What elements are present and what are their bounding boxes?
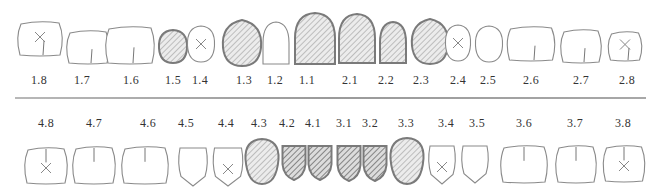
tooth-label-4-8: 4.8 [38, 116, 54, 131]
tooth-1-7[interactable] [67, 31, 110, 64]
tooth-outline [561, 30, 602, 63]
tooth-outline [213, 148, 243, 186]
tooth-1-8[interactable] [18, 22, 63, 56]
tooth-label-1-7: 1.7 [74, 73, 90, 88]
tooth-label-1-3: 1.3 [236, 73, 252, 88]
tooth-2-3[interactable] [412, 19, 448, 64]
tooth-1-5[interactable] [159, 30, 187, 63]
tooth-label-2-4: 2.4 [450, 73, 466, 88]
tooth-label-3-3: 3.3 [398, 116, 414, 131]
tooth-4-7[interactable] [73, 147, 116, 184]
tooth-3-6[interactable] [501, 146, 548, 183]
tooth-label-4-4: 4.4 [218, 116, 234, 131]
tooth-outline [18, 22, 63, 56]
tooth-label-4-2: 4.2 [279, 116, 295, 131]
tooth-outline [263, 22, 289, 64]
tooth-3-8[interactable] [603, 146, 645, 182]
tooth-label-3-7: 3.7 [567, 116, 583, 131]
tooth-3-7[interactable] [556, 146, 597, 183]
tooth-outline [283, 146, 306, 180]
tooth-4-3[interactable] [245, 139, 278, 184]
tooth-4-4[interactable] [213, 148, 243, 186]
tooth-outline [179, 148, 208, 186]
tooth-label-4-7: 4.7 [86, 116, 102, 131]
tooth-label-3-6: 3.6 [516, 116, 532, 131]
tooth-label-1-6: 1.6 [123, 73, 139, 88]
tooth-2-4[interactable] [445, 25, 470, 61]
tooth-1-1[interactable] [295, 13, 335, 64]
tooth-outline [295, 13, 335, 64]
tooth-2-8[interactable] [608, 32, 642, 61]
tooth-outline [106, 27, 155, 64]
tooth-label-3-2: 3.2 [362, 116, 378, 131]
tooth-label-4-5: 4.5 [178, 116, 194, 131]
tooth-1-4[interactable] [187, 26, 214, 62]
tooth-label-1-8: 1.8 [31, 73, 47, 88]
tooth-outline [462, 146, 489, 183]
tooth-1-2[interactable] [263, 22, 289, 64]
tooth-label-1-1: 1.1 [299, 73, 315, 88]
tooth-outline [338, 146, 361, 181]
tooth-3-1[interactable] [338, 146, 361, 181]
tooth-label-4-3: 4.3 [251, 116, 267, 131]
tooth-4-8[interactable] [25, 148, 68, 184]
tooth-label-2-2: 2.2 [378, 73, 394, 88]
tooth-2-5[interactable] [475, 26, 502, 62]
tooth-outline [412, 19, 448, 64]
tooth-label-2-7: 2.7 [573, 73, 589, 88]
tooth-outline [608, 32, 642, 61]
tooth-4-1[interactable] [309, 146, 332, 180]
tooth-outline [339, 14, 375, 63]
tooth-3-5[interactable] [462, 146, 489, 183]
tooth-label-4-6: 4.6 [140, 116, 156, 131]
tooth-2-6[interactable] [507, 27, 555, 61]
tooth-3-2[interactable] [364, 146, 387, 181]
tooth-outline [390, 138, 423, 184]
tooth-label-4-1: 4.1 [305, 116, 321, 131]
tooth-label-2-6: 2.6 [523, 73, 539, 88]
tooth-2-7[interactable] [561, 30, 602, 63]
tooth-outline [507, 27, 555, 61]
tooth-1-6[interactable] [106, 27, 155, 64]
tooth-label-1-5: 1.5 [165, 73, 181, 88]
tooth-label-3-5: 3.5 [469, 116, 485, 131]
tooth-2-1[interactable] [339, 14, 375, 63]
tooth-4-5[interactable] [179, 148, 208, 186]
tooth-outline [309, 146, 332, 180]
tooth-outline [67, 31, 110, 64]
dental-chart: 1.81.71.61.51.41.31.21.12.12.22.32.42.52… [0, 0, 661, 189]
tooth-outline [380, 22, 406, 63]
tooth-3-4[interactable] [429, 146, 456, 184]
teeth-layer [18, 13, 645, 186]
tooth-diagram [0, 0, 661, 189]
tooth-label-3-8: 3.8 [615, 116, 631, 131]
tooth-label-2-8: 2.8 [619, 73, 635, 88]
tooth-1-3[interactable] [223, 20, 261, 66]
tooth-outline [475, 26, 502, 62]
tooth-2-2[interactable] [380, 22, 406, 63]
tooth-label-1-2: 1.2 [267, 73, 283, 88]
tooth-label-1-4: 1.4 [192, 73, 208, 88]
tooth-label-2-3: 2.3 [413, 73, 429, 88]
tooth-label-3-4: 3.4 [438, 116, 454, 131]
tooth-label-2-5: 2.5 [480, 73, 496, 88]
tooth-label-3-1: 3.1 [336, 116, 352, 131]
tooth-outline [364, 146, 387, 181]
tooth-label-2-1: 2.1 [342, 73, 358, 88]
tooth-outline [245, 139, 278, 184]
tooth-3-3[interactable] [390, 138, 423, 184]
tooth-outline [429, 146, 456, 184]
tooth-4-2[interactable] [283, 146, 306, 180]
tooth-4-6[interactable] [122, 147, 169, 184]
arch-divider-line [15, 97, 646, 99]
tooth-outline [159, 30, 187, 63]
tooth-outline [223, 20, 261, 66]
